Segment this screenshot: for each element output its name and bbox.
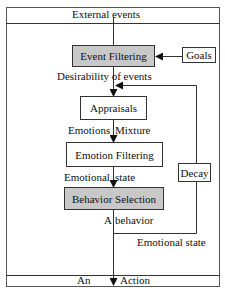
behavior-selection-label: Behavior Selection <box>72 193 156 205</box>
emotion-filtering-node: Emotion Filtering <box>66 142 163 167</box>
desirability-label: Desirability of events <box>57 70 152 82</box>
appraisals-node: Appraisals <box>80 96 147 120</box>
appraisals-label: Appraisals <box>90 102 137 114</box>
emotion-filtering-label: Emotion Filtering <box>75 149 154 161</box>
external-events-label: External events <box>72 8 140 20</box>
goals-label: Goals <box>186 49 212 61</box>
emotional-label: Emotional <box>64 171 110 183</box>
event-filtering-label: Event Filtering <box>80 50 146 62</box>
action-label: Action <box>120 274 150 286</box>
a-label: A <box>104 214 112 226</box>
emotions-label: Emotions <box>68 124 110 136</box>
feedback-emotional-state-label: Emotional state <box>137 236 206 248</box>
an-label: An <box>77 274 90 286</box>
decay-label: Decay <box>180 167 208 179</box>
behavior-selection-node: Behavior Selection <box>64 187 164 210</box>
goals-node: Goals <box>182 47 216 63</box>
decay-node: Decay <box>178 163 211 182</box>
mixture-label: Mixture <box>115 124 150 136</box>
behavior-label: behavior <box>115 214 153 226</box>
state-label: state <box>115 171 135 183</box>
event-filtering-node: Event Filtering <box>72 45 155 67</box>
